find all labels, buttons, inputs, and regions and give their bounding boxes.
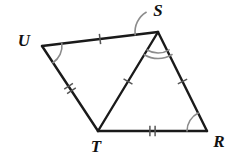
tick-mark-US-1	[99, 34, 100, 44]
vertex-labels-group: U S T R	[18, 1, 225, 156]
vertex-label-R: R	[212, 132, 224, 151]
diagram-canvas: U S T R	[0, 0, 233, 162]
angle-U-arc-1	[53, 44, 62, 63]
vertex-label-S: S	[153, 1, 162, 20]
vertex-label-T: T	[91, 137, 102, 156]
segment-UT	[42, 46, 98, 131]
angle-TSR-arc-2	[144, 54, 172, 58]
angle-UST-arc-1	[135, 12, 146, 35]
geometry-diagram: U S T R	[0, 0, 233, 162]
angle-R-arc-1	[187, 113, 198, 131]
vertex-label-U: U	[18, 31, 31, 50]
